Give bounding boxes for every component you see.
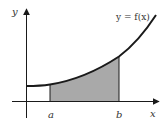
area-under-curve-diagram: y x a b y = f(x) — [0, 0, 166, 126]
curve-label: y = f(x) — [115, 12, 150, 22]
lower-bound-label: a — [48, 109, 54, 120]
upper-bound-label: b — [116, 109, 122, 120]
y-axis-label: y — [11, 6, 18, 17]
x-axis-label: x — [150, 108, 156, 119]
